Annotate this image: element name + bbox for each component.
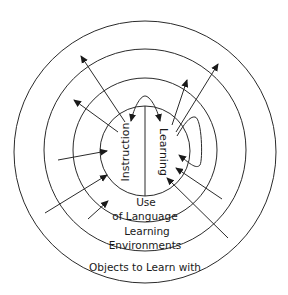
- label-learning: Learning: [157, 128, 170, 176]
- label-objects-to-learn-with: Objects to Learn with: [89, 261, 201, 273]
- arrow-in-right-2: [167, 178, 228, 238]
- label-instruction: Instruction: [119, 123, 132, 182]
- label-learning-env-line2: Environments: [109, 239, 182, 251]
- arrow-in-left-1: [58, 151, 107, 160]
- arrow-out-upper-left-2: [74, 100, 118, 132]
- nested-circles-diagram: Instruction Learning Use of Language Lea…: [0, 0, 288, 295]
- arrow-in-right-1: [176, 168, 222, 199]
- label-of-language: of Language: [112, 210, 177, 222]
- label-learning-env-line1: Learning: [124, 225, 170, 237]
- arrow-out-upper-left-1: [81, 56, 125, 122]
- label-use: Use: [136, 196, 156, 208]
